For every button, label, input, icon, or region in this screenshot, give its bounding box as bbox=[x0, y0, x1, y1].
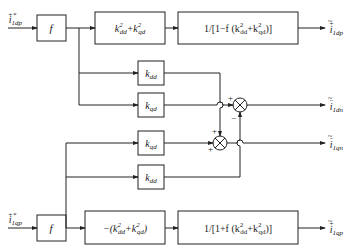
kdd-label-2: kdd bbox=[145, 172, 157, 185]
block-diagram: i1dp+* i1qp+* f f k2dd+k2qd −(k2dd+k2qd)… bbox=[0, 0, 348, 248]
svg-text:~: ~ bbox=[328, 94, 333, 103]
svg-text:~: ~ bbox=[328, 217, 333, 226]
f-label-top: f bbox=[49, 22, 54, 34]
input-label-bottom: i1qp+* bbox=[8, 211, 23, 227]
output-label-qp: i1qp+ ~ bbox=[328, 217, 344, 237]
output-label-dp: i1dp+ ~ bbox=[328, 17, 344, 37]
svg-text:~: ~ bbox=[328, 17, 333, 26]
f-label-bottom: f bbox=[49, 222, 54, 234]
upper-summer-minus: − bbox=[231, 113, 236, 123]
transfer-label-bottom: 1/[1+f (k2dd+k2qd)] bbox=[204, 221, 272, 236]
kqd-label-2: kqd bbox=[145, 138, 157, 151]
lower-summer-plus-top: + bbox=[212, 126, 217, 136]
gain-label-bottom: −(k2dd+k2qd) bbox=[103, 221, 148, 236]
svg-text:~: ~ bbox=[328, 132, 333, 141]
output-label-dn: i1dn− ~ bbox=[328, 94, 344, 114]
transfer-label-top: 1/[1−f (k2dd+k2qd)] bbox=[204, 21, 272, 36]
output-label-qn: i1qn− ~ bbox=[328, 132, 344, 152]
kdd-label-1: kdd bbox=[145, 68, 157, 81]
svg-text:i1qp+*: i1qp+* bbox=[8, 211, 23, 227]
svg-text:i1dp+*: i1dp+* bbox=[8, 11, 23, 27]
input-label-top: i1dp+* bbox=[8, 11, 23, 27]
kqd-label-1: kqd bbox=[145, 100, 157, 113]
upper-summer-plus: + bbox=[228, 93, 233, 103]
lower-summer-plus-left: + bbox=[208, 144, 213, 154]
gain-label-top: k2dd+k2qd bbox=[115, 21, 146, 36]
